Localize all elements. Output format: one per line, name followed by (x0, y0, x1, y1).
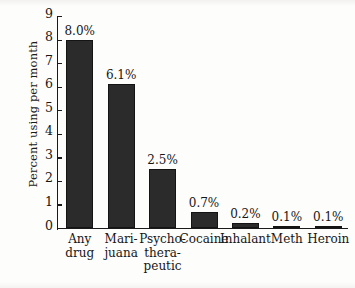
bar-value-label: 6.1% (91, 69, 151, 81)
y-tick-mark (57, 204, 62, 205)
bar-value-label: 0.7% (174, 197, 234, 209)
bar-value-label: 0.1% (298, 211, 355, 223)
x-axis-label-heroin: Heroin (298, 233, 355, 247)
y-axis-line (57, 16, 58, 230)
y-tick-label: 1 (31, 196, 53, 209)
y-tick-mark (57, 16, 62, 17)
y-tick-mark (57, 134, 62, 135)
x-axis-line (57, 228, 348, 229)
bar-value-label: 8.0% (50, 25, 110, 37)
bar-inhalant (232, 223, 259, 228)
bar-marijuana (108, 84, 135, 228)
y-tick-label: 2 (31, 172, 53, 185)
y-tick-mark (57, 63, 62, 64)
y-tick-mark (57, 181, 62, 182)
y-tick-label: 3 (31, 149, 53, 162)
bar-chart-figure: Percent using per month 0123456789 8.0%6… (0, 0, 355, 288)
x-axis-label-line: peutic (133, 260, 193, 274)
scan-edge-bottom (0, 282, 355, 288)
y-tick-label: 4 (31, 125, 53, 138)
y-tick-label: 6 (31, 78, 53, 91)
y-tick-label: 0 (31, 220, 53, 233)
bar-cocaine (191, 212, 218, 228)
y-tick-label: 9 (31, 8, 53, 21)
x-axis-label-line: Heroin (298, 233, 355, 247)
bar-any-drug (66, 40, 93, 228)
y-tick-mark (57, 87, 62, 88)
bar-meth (273, 226, 300, 229)
bar-value-label: 2.5% (133, 154, 193, 166)
y-tick-mark (57, 228, 62, 229)
y-tick-mark (57, 110, 62, 111)
bar-psychotherapeutic (149, 169, 176, 228)
scan-edge-top (0, 0, 355, 6)
plot-area: 0123456789 8.0%6.1%2.5%0.7%0.2%0.1%0.1% … (57, 16, 347, 229)
y-tick-mark (57, 157, 62, 158)
bar-heroin (315, 226, 342, 229)
x-axis-label-line: thera- (133, 247, 193, 261)
y-tick-mark (57, 40, 62, 41)
y-tick-label: 7 (31, 55, 53, 68)
y-tick-label: 5 (31, 102, 53, 115)
